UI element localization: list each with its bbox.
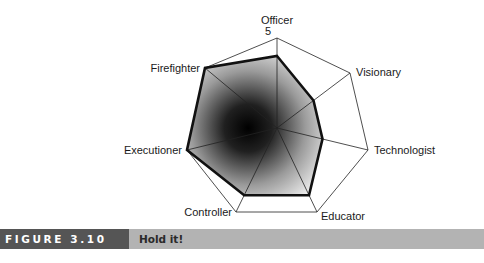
axis-label-educator: Educator xyxy=(321,210,365,222)
axis-label-executioner: Executioner xyxy=(124,144,182,156)
scale-max-label: 5 xyxy=(265,25,271,37)
axis-label-firefighter: Firefighter xyxy=(150,62,200,74)
axis-label-controller: Controller xyxy=(184,206,232,218)
axis-label-visionary: Visionary xyxy=(356,66,402,78)
axis-label-technologist: Technologist xyxy=(374,144,435,156)
figure-caption-bar: FIGURE 3.10 Hold it! xyxy=(0,229,484,249)
radar-chart: OfficerVisionaryTechnologistEducatorCont… xyxy=(0,0,484,228)
figure-number: FIGURE 3.10 xyxy=(0,229,129,249)
radar-plot xyxy=(187,38,368,212)
figure-title: Hold it! xyxy=(129,229,183,249)
